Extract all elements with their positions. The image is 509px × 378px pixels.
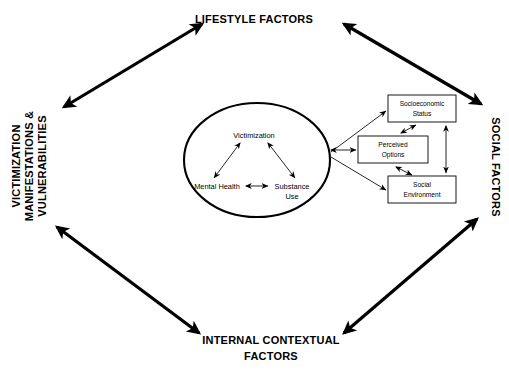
- node-label-victimization: Victimization: [233, 131, 274, 140]
- label-victimization-line2: MANIFESTATIONS &: [23, 111, 35, 221]
- box-perceived-options[interactable]: Perceived Options: [358, 136, 428, 163]
- box-social-environment-line1: Social: [413, 181, 431, 188]
- node-label-mental-health: Mental Health: [194, 182, 240, 191]
- box-perceived-options-line1: Perceived: [378, 141, 408, 148]
- arrow-socioeconomic-perceived: [401, 125, 416, 133]
- outer-label-bottom: INTERNAL CONTEXTUAL FACTORS: [202, 334, 340, 362]
- core-node-labels: Victimization Mental Health Substance Us…: [194, 131, 309, 201]
- diagram-canvas: LIFESTYLE FACTORS VICTIMIZATION MANIFEST…: [0, 0, 509, 378]
- node-label-substance-use-line1: Substance: [275, 182, 310, 191]
- arrow-topright-diagonal: [344, 24, 481, 104]
- arrow-victimization-mentalhealth: [214, 143, 240, 178]
- label-victimization-line1: VICTIMIZATION: [10, 124, 22, 207]
- outer-label-left: VICTIMIZATION MANIFESTATIONS & VULNERABI…: [10, 111, 48, 221]
- core-ellipse: [184, 103, 330, 217]
- box-socioeconomic-status-line1: Socioeconomic: [400, 100, 445, 107]
- label-internal-contextual-line2: FACTORS: [244, 350, 298, 362]
- arrow-victimization-substanceuse: [268, 143, 295, 178]
- box-socioeconomic-status[interactable]: Socioeconomic Status: [388, 95, 456, 122]
- arrow-perceived-socialenvironment: [396, 167, 412, 175]
- outer-label-right: SOCIAL FACTORS: [490, 117, 502, 217]
- box-socioeconomic-status-line2: Status: [413, 110, 432, 117]
- arrow-topleft-diagonal: [64, 24, 202, 107]
- label-internal-contextual-line1: INTERNAL CONTEXTUAL: [202, 334, 340, 346]
- box-social-environment[interactable]: Social Environment: [388, 176, 456, 203]
- arrow-bottomright-diagonal: [344, 219, 477, 333]
- inner-triangle-arrows: [214, 143, 295, 186]
- box-perceived-options-line2: Options: [382, 151, 405, 159]
- label-lifestyle-factors: LIFESTYLE FACTORS: [195, 13, 313, 25]
- box-social-environment-line2: Environment: [403, 191, 440, 198]
- node-label-substance-use-line2: Use: [285, 192, 298, 201]
- outer-label-top: LIFESTYLE FACTORS: [195, 13, 313, 25]
- diagram-root: LIFESTYLE FACTORS VICTIMIZATION MANIFEST…: [0, 0, 509, 378]
- label-social-factors: SOCIAL FACTORS: [490, 117, 502, 217]
- arrow-bottomleft-diagonal: [57, 227, 199, 333]
- label-victimization-line3: VULNERABILITIES: [36, 115, 48, 216]
